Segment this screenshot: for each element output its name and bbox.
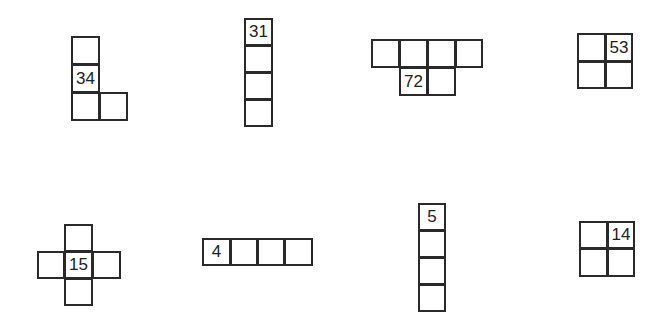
grid-cell [99, 92, 128, 121]
grid-cell [455, 39, 483, 68]
grid-cell [244, 99, 273, 127]
grid-cell [371, 39, 400, 68]
grid-cell [418, 284, 446, 312]
grid-cell [577, 33, 606, 62]
grid-cell [427, 67, 456, 96]
grid-cell [257, 238, 285, 266]
numbered-cell: 4 [202, 238, 231, 266]
grid-cell [244, 72, 273, 100]
numbered-cell: 72 [399, 67, 428, 96]
grid-cell [284, 238, 313, 266]
grid-cell [230, 238, 258, 266]
numbered-cell: 34 [71, 64, 100, 93]
grid-cell [244, 45, 273, 73]
grid-cell [579, 248, 608, 277]
grid-cell [418, 257, 446, 285]
numbered-cell: 15 [64, 251, 93, 279]
grid-cell [71, 36, 100, 65]
grid-cell [71, 92, 100, 121]
grid-cell [605, 61, 633, 89]
numbered-cell: 53 [605, 33, 633, 62]
grid-cell [577, 61, 606, 89]
numbered-cell: 31 [244, 18, 273, 46]
grid-cell [418, 230, 446, 258]
grid-cell [64, 278, 93, 306]
grid-cell [607, 248, 635, 277]
grid-cell [92, 251, 121, 279]
grid-cell [64, 224, 93, 252]
numbered-cell: 5 [418, 203, 446, 231]
numbered-cell: 14 [607, 221, 635, 249]
grid-cell [399, 39, 428, 68]
grid-cell [37, 251, 65, 279]
grid-cell [427, 39, 456, 68]
grid-cell [579, 221, 608, 249]
